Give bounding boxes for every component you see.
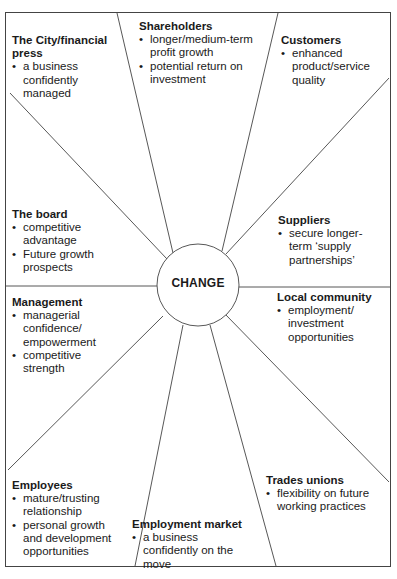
stakeholder-title: Trades unions [266,474,378,487]
stakeholder-point: secure longer-term ‘supply partnerships’ [278,227,370,267]
stakeholder-point: a business confidently managed [12,60,122,100]
stakeholder-shareholders: Shareholders longer/medium-term profit g… [139,20,269,86]
stakeholder-point: enhanced product/service quality [281,47,381,87]
stakeholder-suppliers: Suppliers secure longer-term ‘supply par… [278,214,370,267]
stakeholder-point: longer/medium-term profit growth [139,33,269,59]
stakeholder-title: The City/financial press [12,34,122,60]
stakeholder-customers: Customers enhanced product/service quali… [281,34,381,87]
stakeholder-change-diagram: CHANGE The City/financial press a busine… [0,0,397,579]
stakeholder-management: Management managerial confidence/ empowe… [12,296,112,375]
stakeholder-point: Future growth prospects [12,248,107,274]
stakeholder-point: personal growth and development opportun… [12,519,117,559]
stakeholder-point: a business confidently on the move [132,531,252,571]
stakeholder-local-community: Local community employment/ investment o… [277,291,377,344]
stakeholder-point: flexibility on future working practices [266,487,378,513]
stakeholder-point: competitive advantage [12,221,107,247]
stakeholder-title: Employment market [132,518,252,531]
stakeholder-title: Shareholders [139,20,269,33]
stakeholder-point: employment/ investment opportunities [277,304,377,344]
stakeholder-point: competitive strength [12,349,112,375]
stakeholder-title: Employees [12,479,117,492]
stakeholder-point: managerial confidence/ empowerment [12,309,112,349]
stakeholder-employees: Employees mature/trusting relationship p… [12,479,117,558]
stakeholder-point: mature/trusting relationship [12,492,117,518]
stakeholder-point: potential return on investment [139,60,269,86]
stakeholder-trades-unions: Trades unions flexibility on future work… [266,474,378,514]
stakeholder-title: Local community [277,291,377,304]
stakeholder-employment-market: Employment market a business confidently… [132,518,252,571]
center-label: CHANGE [157,276,239,290]
stakeholder-title: The board [12,208,107,221]
stakeholder-title: Suppliers [278,214,370,227]
stakeholder-title: Customers [281,34,381,47]
stakeholder-title: Management [12,296,112,309]
stakeholder-board: The board competitive advantage Future g… [12,208,107,274]
stakeholder-city-press: The City/financial press a business conf… [12,34,122,100]
